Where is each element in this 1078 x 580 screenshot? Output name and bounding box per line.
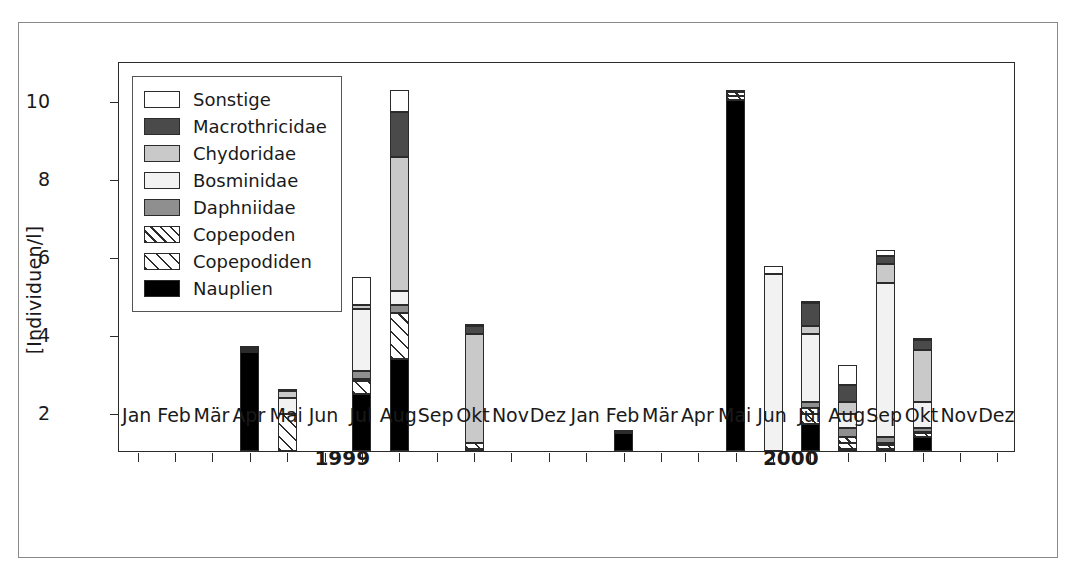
plot-area: SonstigeMacrothricidaeChydoridaeBosminid… (118, 62, 1015, 452)
bar-segment-macrothricidae (801, 303, 820, 326)
bar-segment-chydoridae (913, 350, 932, 403)
bar-segment-chydoridae (465, 334, 484, 443)
bar-segment-macrothricidae (876, 256, 895, 264)
bar-segment-daphniidae (352, 371, 371, 379)
bar-stack (838, 61, 857, 451)
x-tick (923, 453, 924, 462)
x-tick-label: Jun (757, 404, 787, 426)
x-tick (287, 453, 288, 462)
bar-segment-daphniidae (390, 305, 409, 313)
bar-segment-sonstige (352, 277, 371, 304)
x-tick (661, 453, 662, 462)
bar-segment-copepodiden (390, 313, 409, 360)
period-label: 1999 (314, 446, 370, 470)
x-tick (960, 453, 961, 462)
bar-segment-sonstige (465, 324, 484, 326)
x-tick-label: Jan (571, 404, 600, 426)
x-tick (474, 453, 475, 462)
bar-stack (614, 61, 633, 451)
bar-segment-nauplien (838, 449, 857, 451)
bar-segment-sonstige (726, 90, 745, 92)
bar-segment-chydoridae (801, 326, 820, 334)
x-tick-label: Apr (232, 404, 265, 426)
bar-segment-copepoden (726, 92, 745, 96)
bar-segment-copepodiden (913, 433, 932, 437)
x-tick-label: Jul (798, 404, 821, 426)
legend-swatch-icon (144, 172, 180, 189)
x-tick-label: Mai (270, 404, 303, 426)
legend-label: Bosminidae (193, 170, 298, 191)
bar-stack (913, 61, 932, 451)
x-tick-label: Apr (681, 404, 714, 426)
bar-segment-chydoridae (278, 391, 297, 399)
bar-segment-copepoden (913, 431, 932, 433)
bar-segment-daphniidae (838, 428, 857, 438)
x-tick-label: Jun (309, 404, 339, 426)
bar-segment-sonstige (876, 250, 895, 256)
x-tick-label: Okt (905, 404, 938, 426)
legend-label: Macrothricidae (193, 116, 327, 137)
x-tick (997, 453, 998, 462)
x-tick-label: Feb (606, 404, 640, 426)
legend-swatch-icon (144, 91, 180, 108)
x-tick-label: Feb (157, 404, 191, 426)
bar-segment-sonstige (278, 389, 297, 391)
bar-segment-sonstige (240, 346, 259, 348)
bar-segment-chydoridae (876, 264, 895, 284)
bar-segment-copepodiden (876, 445, 895, 449)
x-tick (549, 453, 550, 462)
x-tick-label: Nov (940, 404, 977, 426)
legend-item: Daphniidae (144, 194, 327, 221)
bar-segment-copepodiden (726, 96, 745, 100)
bar-stack (465, 61, 484, 451)
y-tick (110, 414, 119, 415)
x-tick (138, 453, 139, 462)
legend-label: Chydoridae (193, 143, 296, 164)
x-tick-label: Jul (349, 404, 372, 426)
legend-item: Macrothricidae (144, 113, 327, 140)
x-tick-label: Sep (866, 404, 902, 426)
y-tick (110, 336, 119, 337)
x-tick (212, 453, 213, 462)
x-tick-label: Mär (642, 404, 678, 426)
period-label: 2000 (763, 446, 819, 470)
legend-item: Bosminidae (144, 167, 327, 194)
y-tick (110, 258, 119, 259)
legend-swatch-icon (144, 280, 180, 297)
bar-segment-bosminidae (390, 291, 409, 305)
bar-segment-macrothricidae (913, 340, 932, 350)
bar-segment-sonstige (764, 266, 783, 274)
x-tick-label: Aug (828, 404, 865, 426)
legend-label: Daphniidae (193, 197, 296, 218)
bar-stack (726, 61, 745, 451)
bar-segment-bosminidae (352, 309, 371, 371)
bar-segment-sonstige (614, 430, 633, 432)
bar-segment-sonstige (801, 301, 820, 303)
y-axis-title: [Individuen/l] (23, 226, 45, 355)
bar-segment-copepodiden (240, 350, 259, 352)
y-tick (110, 180, 119, 181)
x-tick-label: Jan (122, 404, 151, 426)
legend-item: Copepodiden (144, 248, 327, 275)
bar-segment-copepoden (876, 443, 895, 445)
bar-segment-nauplien (876, 449, 895, 451)
bar-segment-nauplien (240, 352, 259, 451)
bar-stack (876, 61, 895, 451)
x-tick-label: Aug (380, 404, 417, 426)
legend-item: Nauplien (144, 275, 327, 302)
x-tick (175, 453, 176, 462)
bar-segment-copepoden (352, 379, 371, 381)
y-tick-label: 10 (26, 90, 50, 112)
x-tick (437, 453, 438, 462)
bar-segment-sonstige (913, 338, 932, 340)
y-tick (110, 102, 119, 103)
bar-segment-bosminidae (240, 348, 259, 350)
legend-label: Nauplien (193, 278, 273, 299)
chart-legend: SonstigeMacrothricidaeChydoridaeBosminid… (132, 76, 342, 312)
bar-segment-sonstige (838, 365, 857, 385)
chart-page: 246810 [Individuen/l] SonstigeMacrothric… (0, 0, 1078, 580)
x-tick-label: Mär (194, 404, 230, 426)
legend-item: Copepoden (144, 221, 327, 248)
legend-swatch-icon (144, 253, 180, 270)
legend-item: Sonstige (144, 86, 327, 113)
